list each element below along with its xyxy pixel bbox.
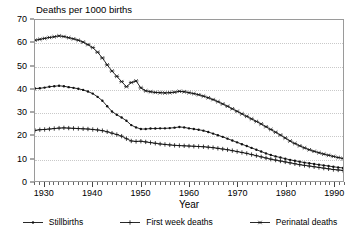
data-point-star [235, 110, 240, 113]
legend-marker-plus-icon [119, 217, 141, 228]
x-tick-minor [49, 182, 50, 185]
data-point-dot [279, 156, 281, 158]
x-tick-minor [315, 182, 316, 185]
x-tick-minor [310, 182, 311, 185]
data-point-star [230, 107, 235, 110]
data-point-star [259, 122, 264, 125]
series-first-week-deaths [35, 126, 343, 173]
data-point-star [341, 157, 343, 160]
x-tick-minor [262, 182, 263, 185]
data-point-dot [32, 221, 34, 223]
data-point-star [278, 133, 283, 136]
x-tick-major [141, 182, 142, 187]
x-tick-minor [344, 182, 345, 185]
x-tick-minor [82, 182, 83, 185]
legend-label: First week deaths [146, 217, 213, 227]
data-point-plus [182, 144, 186, 148]
data-point-star [240, 112, 245, 115]
data-point-dot [111, 110, 113, 112]
y-tick-label: 40 [17, 84, 27, 93]
data-point-star [201, 94, 206, 97]
x-tick-minor [97, 182, 98, 185]
data-point-star [211, 98, 216, 101]
x-tick-label: 1950 [131, 188, 151, 198]
data-point-plus [302, 163, 306, 167]
x-tick-minor [252, 182, 253, 185]
data-point-plus [168, 143, 172, 147]
data-point-dot [236, 141, 238, 143]
plot-area [34, 19, 344, 182]
x-tick-minor [107, 182, 108, 185]
y-tick-label: 0 [22, 178, 27, 187]
data-point-star [148, 90, 153, 93]
data-point-plus [187, 144, 191, 148]
data-point-star [95, 50, 100, 53]
data-point-star [302, 146, 307, 149]
x-tick-minor [174, 182, 175, 185]
data-point-dot [274, 155, 276, 157]
data-point-plus [129, 139, 133, 143]
x-tick-minor [73, 182, 74, 185]
data-point-star [273, 131, 278, 134]
data-point-star [249, 117, 254, 120]
data-point-plus [163, 142, 167, 146]
data-point-dot [63, 85, 65, 87]
data-point-star [177, 90, 182, 93]
data-point-dot [270, 154, 272, 156]
data-point-dot [35, 87, 36, 89]
x-tick-minor [78, 182, 79, 185]
x-tick-minor [281, 182, 282, 185]
series-line [35, 86, 343, 168]
data-point-dot [77, 88, 79, 90]
data-point-dot [159, 127, 161, 129]
data-point-dot [231, 139, 233, 141]
data-point-plus [196, 144, 200, 148]
data-point-plus [119, 134, 123, 138]
data-point-star [105, 63, 110, 66]
data-point-star [182, 90, 187, 93]
x-tick-minor [228, 182, 229, 185]
data-point-dot [217, 134, 219, 136]
data-point-dot [82, 89, 84, 91]
data-point-plus [57, 126, 61, 130]
x-tick-minor [116, 182, 117, 185]
data-point-star [317, 151, 322, 154]
x-tick-minor [213, 182, 214, 185]
data-point-dot [284, 158, 286, 160]
data-point-plus [269, 157, 273, 161]
data-point-plus [273, 158, 277, 162]
data-point-plus [298, 162, 302, 166]
y-tick-label: 50 [17, 61, 27, 70]
data-point-dot [246, 145, 248, 147]
x-tick-minor [150, 182, 151, 185]
chart-legend: StillbirthsFirst week deathsPerinatal de… [0, 212, 359, 232]
y-tick-label: 30 [17, 108, 27, 117]
data-point-plus [278, 159, 282, 163]
legend-entry[interactable]: Perinatal deaths [249, 217, 337, 228]
data-point-star [312, 150, 317, 153]
x-tick-minor [325, 182, 326, 185]
x-tick-minor [87, 182, 88, 185]
data-point-star [257, 220, 262, 223]
data-point-star [326, 154, 331, 157]
data-point-plus [254, 154, 258, 158]
data-point-plus [317, 165, 321, 169]
x-tick-minor [300, 182, 301, 185]
legend-entry[interactable]: First week deaths [119, 217, 213, 228]
x-tick-minor [339, 182, 340, 185]
data-point-plus [177, 143, 181, 147]
x-tick-minor [267, 182, 268, 185]
data-point-plus [71, 126, 75, 130]
x-tick-minor [39, 182, 40, 185]
x-tick-minor [291, 182, 292, 185]
data-point-plus [158, 142, 162, 146]
data-point-star [321, 152, 326, 155]
data-point-dot [164, 127, 166, 129]
data-point-dot [116, 114, 118, 116]
x-tick-minor [247, 182, 248, 185]
legend-entry[interactable]: Stillbirths [22, 217, 83, 228]
x-tick-minor [155, 182, 156, 185]
x-tick-minor [160, 182, 161, 185]
data-point-plus [128, 220, 132, 224]
data-point-plus [144, 140, 148, 144]
